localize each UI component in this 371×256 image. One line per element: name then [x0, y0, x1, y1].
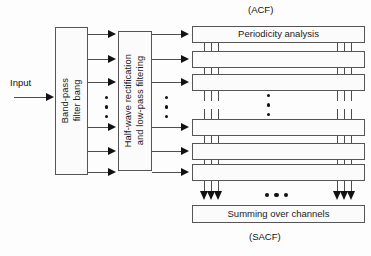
bus-line-r1-g1: [337, 43, 338, 51]
acf-row-box-2: [192, 51, 365, 68]
bus-line-r3-g3: [351, 91, 352, 101]
dot: [105, 115, 108, 118]
dot: [165, 115, 168, 118]
bus-line-l3-g2: [218, 68, 219, 74]
wire-s2-acf-2: [152, 59, 183, 60]
bus-line-r3-g4: [351, 109, 352, 119]
wire-s2-acf-5: [152, 151, 183, 152]
summing-over-channels-box: Summing over channels: [192, 205, 365, 223]
bus-line-l3-g5: [218, 136, 219, 143]
wire-s2-acf-1: [152, 34, 183, 35]
acf-caption: (ACF): [248, 4, 273, 15]
dot: [267, 113, 270, 116]
wire-s2-acf-3: [152, 82, 183, 83]
dot: [267, 94, 270, 97]
bus-line-r1-g5: [337, 136, 338, 143]
summing-arrowhead-r3: [347, 191, 355, 200]
bus-line-l2-g3: [211, 91, 212, 101]
bus-line-r1-g4: [337, 109, 338, 119]
bus-line-l2-g2: [211, 68, 212, 74]
bus-line-l2-g6: [211, 160, 212, 164]
bus-line-r1-g2: [337, 68, 338, 74]
drop-line-r2: [344, 181, 345, 191]
bus-line-r3-g1: [351, 43, 352, 51]
periodicity-analysis-box: Periodicity analysis: [192, 26, 365, 43]
acf-row-box-6: [192, 164, 365, 181]
bus-line-r1-g3: [337, 91, 338, 101]
bus-line-l1-g6: [204, 160, 205, 164]
bus-line-l1-g1: [204, 43, 205, 51]
arrowhead-s2-acf-3: [181, 78, 189, 86]
summing-arrowhead-l3: [214, 191, 222, 200]
drop-line-l2: [211, 181, 212, 191]
dot: [274, 193, 278, 197]
dot: [284, 193, 288, 197]
dot: [267, 103, 270, 106]
wire-s1-s2-4: [88, 127, 110, 128]
input-arrowhead: [46, 93, 54, 101]
bus-line-l3-g1: [218, 43, 219, 51]
channel-ellipsis-s2-acf: [164, 96, 169, 118]
arrowhead-s2-acf-1: [181, 30, 189, 38]
arrowhead-s1-s2-1: [108, 30, 116, 38]
bus-line-r3-g2: [351, 68, 352, 74]
acf-rows-ellipsis: [266, 94, 271, 116]
arrowhead-s2-acf-2: [181, 55, 189, 63]
drop-line-r3: [351, 181, 352, 191]
bus-line-r2-g2: [344, 68, 345, 74]
bus-line-r3-g5: [351, 136, 352, 143]
arrowhead-s2-acf-5: [181, 147, 189, 155]
arrowhead-s1-s2-4: [108, 123, 116, 131]
drop-line-l1: [204, 181, 205, 191]
summing-over-channels-label: Summing over channels: [228, 209, 330, 220]
dot: [265, 193, 269, 197]
dot: [165, 105, 168, 108]
acf-row-box-4: [192, 119, 365, 136]
bus-line-r2-g1: [344, 43, 345, 51]
input-label: Input: [10, 77, 31, 88]
acf-row-box-5: [192, 143, 365, 160]
input-wire: [14, 97, 47, 98]
arrowhead-s1-s2-2: [108, 55, 116, 63]
wire-s2-acf-4: [152, 127, 183, 128]
arrowhead-s1-s2-5: [108, 147, 116, 155]
band-pass-filter-bank-label: Band-pass filter bang: [60, 78, 83, 123]
bus-line-l1-g4: [204, 109, 205, 119]
bus-line-r1-g6: [337, 160, 338, 164]
channel-ellipsis-s1-s2: [104, 96, 109, 118]
wire-s1-s2-3: [88, 82, 110, 83]
dot: [105, 105, 108, 108]
bus-line-l2-g5: [211, 136, 212, 143]
arrowhead-s1-s2-6: [108, 168, 116, 176]
wire-s1-s2-5: [88, 151, 110, 152]
bus-line-l2-g4: [211, 109, 212, 119]
wire-s1-s2-1: [88, 34, 110, 35]
bus-line-r2-g5: [344, 136, 345, 143]
drop-line-l3: [218, 181, 219, 191]
bus-line-l3-g3: [218, 91, 219, 101]
bus-line-r2-g6: [344, 160, 345, 164]
bus-line-r2-g3: [344, 91, 345, 101]
band-pass-filter-bank-box: Band-pass filter bang: [55, 27, 88, 175]
summing-inputs-ellipsis: [265, 192, 288, 198]
half-wave-rectification-box: Half-wave rectification and low-pass fil…: [118, 31, 152, 171]
wire-s1-s2-6: [88, 172, 110, 173]
signal-flow-diagram: (ACF) Input Band-pass filter bang Half-w…: [0, 0, 371, 256]
arrowhead-s2-acf-6: [181, 168, 189, 176]
bus-line-l1-g3: [204, 91, 205, 101]
bus-line-r2-g4: [344, 109, 345, 119]
sacf-caption: (SACF): [249, 231, 281, 242]
dot: [165, 96, 168, 99]
bus-line-l3-g4: [218, 109, 219, 119]
half-wave-rectification-label: Half-wave rectification and low-pass fil…: [123, 54, 146, 147]
bus-line-r3-g6: [351, 160, 352, 164]
bus-line-l1-g2: [204, 68, 205, 74]
periodicity-analysis-label: Periodicity analysis: [238, 29, 319, 40]
arrowhead-s2-acf-4: [181, 123, 189, 131]
drop-line-r1: [337, 181, 338, 191]
wire-s2-acf-6: [152, 172, 183, 173]
acf-row-box-3: [192, 74, 365, 91]
arrowhead-s1-s2-3: [108, 78, 116, 86]
dot: [105, 96, 108, 99]
bus-line-l3-g6: [218, 160, 219, 164]
